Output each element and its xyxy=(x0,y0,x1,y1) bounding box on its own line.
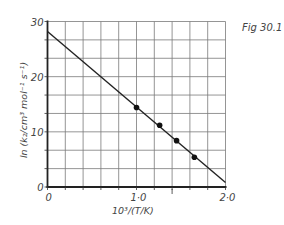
y-tick-label: 10 xyxy=(31,127,44,138)
x-tick-label: 1·0 xyxy=(131,192,147,203)
tick-labels: 01·02·00102030 xyxy=(31,17,236,204)
y-tick-label: 30 xyxy=(31,17,44,28)
chart: 01·02·00102030 Fig 30.1 10³/(T/K) ln (k₂… xyxy=(0,0,284,225)
grid xyxy=(48,22,226,188)
y-axis-label: ln (k₂/cm³ mol⁻¹ s⁻¹) xyxy=(18,62,29,158)
data-point xyxy=(192,154,198,160)
data-point xyxy=(174,138,180,144)
data-point xyxy=(157,122,163,128)
y-tick-label: 20 xyxy=(31,72,44,83)
figure-label: Fig 30.1 xyxy=(242,22,282,33)
data-point xyxy=(134,105,140,111)
x-tick-label: 2·0 xyxy=(220,192,236,203)
x-axis-label: 10³/(T/K) xyxy=(112,205,154,216)
x-tick-label: 0 xyxy=(46,192,52,203)
y-tick-label: 0 xyxy=(37,182,43,193)
